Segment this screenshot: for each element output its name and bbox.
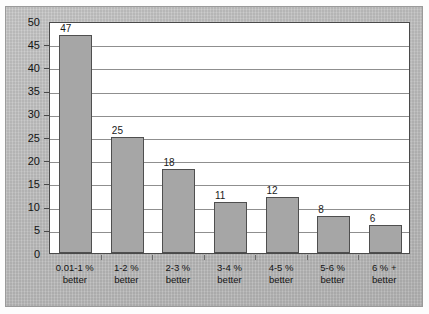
y-axis-tick-label: 45 (14, 40, 40, 51)
x-axis-tick-mark (307, 255, 308, 260)
bar-value-label: 18 (163, 157, 174, 168)
x-axis-label-line-1: 2-3 % (152, 262, 204, 274)
bar-value-label: 6 (370, 213, 376, 224)
bar-value-label: 11 (215, 190, 225, 201)
bar-series: 472518111286 (50, 23, 409, 253)
x-axis-label-line-1: 4-5 % (255, 262, 307, 274)
x-axis-label-line-2: better (204, 274, 256, 286)
x-axis-tick-label: 0.01-1 %better (49, 262, 101, 286)
x-axis-label-line-2: better (307, 274, 359, 286)
x-axis-label-line-2: better (49, 274, 101, 286)
bar-group: 12 (266, 197, 299, 253)
x-axis-tick-label: 4-5 %better (255, 262, 307, 286)
bar: 11 (214, 202, 247, 253)
bar: 25 (111, 137, 144, 253)
bar-group: 8 (317, 216, 350, 253)
x-axis-label-line-1: 1-2 % (101, 262, 153, 274)
bar-value-label: 47 (60, 23, 71, 34)
bar-value-label: 25 (112, 125, 123, 136)
x-axis-label-line-1: 0.01-1 % (49, 262, 101, 274)
x-axis-tick-mark (152, 255, 153, 260)
bar: 18 (162, 169, 195, 253)
chart-panel: 50454035302520151050 472518111286 0.01-1… (5, 6, 423, 307)
y-axis-tick-label: 40 (14, 63, 40, 74)
y-axis-tick-label: 20 (14, 156, 40, 167)
x-axis-label-line-1: 3-4 % (204, 262, 256, 274)
y-axis-tick-label: 0 (14, 249, 40, 260)
x-axis-tick-label: 3-4 %better (204, 262, 256, 286)
y-axis-tick-label: 50 (14, 17, 40, 28)
y-axis-tick-label: 15 (14, 179, 40, 190)
bar: 12 (266, 197, 299, 253)
y-axis-tick-label: 35 (14, 86, 40, 97)
y-axis-tick-label: 10 (14, 202, 40, 213)
x-axis-label-line-1: 5-6 % (307, 262, 359, 274)
plot-area: 472518111286 (49, 22, 410, 254)
x-axis-tick-label: 5-6 %better (307, 262, 359, 286)
y-axis-tick-label: 25 (14, 133, 40, 144)
x-axis-label-line-2: better (255, 274, 307, 286)
bar-value-label: 8 (318, 204, 324, 215)
x-axis-label-line-2: better (101, 274, 153, 286)
bar: 8 (317, 216, 350, 253)
bar: 6 (369, 225, 402, 253)
x-axis-tick-label: 6 % +better (358, 262, 410, 286)
x-axis-tick-label: 2-3 %better (152, 262, 204, 286)
bar-group: 11 (214, 202, 247, 253)
x-axis-label-line-2: better (358, 274, 410, 286)
bar-group: 6 (369, 225, 402, 253)
bar-group: 18 (162, 169, 195, 253)
x-axis-label-line-2: better (152, 274, 204, 286)
x-axis-tick-mark (255, 255, 256, 260)
bar-group: 25 (111, 137, 144, 253)
x-axis-label-line-1: 6 % + (358, 262, 410, 274)
x-axis-tick-label: 1-2 %better (101, 262, 153, 286)
x-axis-tick-mark (101, 255, 102, 260)
bar-value-label: 12 (267, 185, 278, 196)
x-axis-tick-mark (204, 255, 205, 260)
x-axis-tick-mark (358, 255, 359, 260)
bar: 47 (59, 35, 92, 253)
y-axis-tick-label: 30 (14, 109, 40, 120)
y-axis-tick-label: 5 (14, 225, 40, 236)
bar-group: 47 (59, 35, 92, 253)
